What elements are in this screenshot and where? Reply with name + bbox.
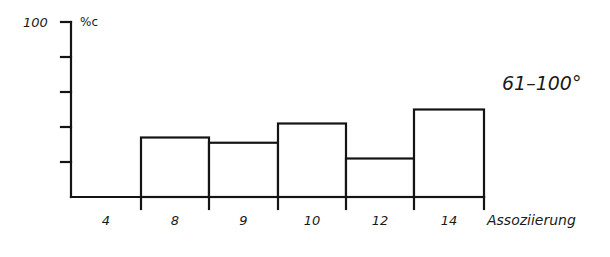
x-axis-title: Assoziierung — [486, 212, 576, 228]
x-tick-label-12: 12 — [372, 213, 389, 228]
bar-12 — [346, 159, 414, 198]
y-axis-unit-label: %c — [80, 15, 98, 29]
x-tick-label-9: 9 — [239, 213, 247, 228]
bar-9 — [209, 143, 278, 197]
x-tick-labels: 489101214 — [102, 213, 457, 228]
x-tick-label-14: 14 — [441, 213, 458, 228]
bars-group — [141, 110, 484, 198]
bar-8 — [141, 138, 209, 198]
bar-chart: 489101214 100 %c Assoziierung 61–100° — [0, 0, 610, 257]
annotation-angle-range: 61–100° — [502, 72, 581, 94]
x-tick-label-10: 10 — [304, 213, 321, 228]
x-tick-label-8: 8 — [171, 213, 179, 228]
y-axis-max-label: 100 — [23, 15, 48, 30]
bar-14 — [414, 110, 484, 198]
bar-10 — [278, 124, 346, 198]
x-tick-label-4: 4 — [102, 213, 110, 228]
